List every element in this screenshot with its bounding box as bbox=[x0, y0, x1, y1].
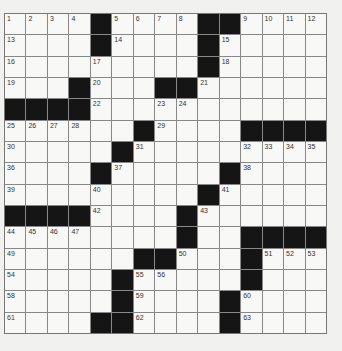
grid-cell[interactable]: 34 bbox=[284, 142, 304, 162]
grid-cell[interactable]: 14 bbox=[112, 35, 132, 55]
grid-cell[interactable] bbox=[134, 78, 154, 98]
grid-cell[interactable] bbox=[220, 142, 240, 162]
grid-cell[interactable]: 19 bbox=[5, 78, 25, 98]
grid-cell[interactable] bbox=[69, 270, 89, 290]
grid-cell[interactable]: 10 bbox=[263, 14, 283, 34]
grid-cell[interactable] bbox=[69, 313, 89, 333]
grid-cell[interactable] bbox=[134, 206, 154, 226]
grid-cell[interactable] bbox=[48, 78, 68, 98]
grid-cell[interactable] bbox=[220, 270, 240, 290]
grid-cell[interactable]: 27 bbox=[48, 121, 68, 141]
grid-cell[interactable]: 55 bbox=[134, 270, 154, 290]
grid-cell[interactable] bbox=[241, 206, 261, 226]
grid-cell[interactable]: 29 bbox=[155, 121, 175, 141]
grid-cell[interactable]: 37 bbox=[112, 163, 132, 183]
grid-cell[interactable]: 23 bbox=[155, 99, 175, 119]
grid-cell[interactable] bbox=[198, 227, 218, 247]
grid-cell[interactable] bbox=[69, 163, 89, 183]
grid-cell[interactable] bbox=[263, 163, 283, 183]
grid-cell[interactable]: 35 bbox=[306, 142, 326, 162]
grid-cell[interactable]: 47 bbox=[69, 227, 89, 247]
grid-cell[interactable] bbox=[284, 57, 304, 77]
grid-cell[interactable]: 40 bbox=[91, 185, 111, 205]
grid-cell[interactable] bbox=[112, 206, 132, 226]
grid-cell[interactable] bbox=[177, 35, 197, 55]
grid-cell[interactable] bbox=[306, 313, 326, 333]
grid-cell[interactable] bbox=[26, 142, 46, 162]
grid-cell[interactable]: 9 bbox=[241, 14, 261, 34]
grid-cell[interactable] bbox=[112, 227, 132, 247]
grid-cell[interactable] bbox=[155, 57, 175, 77]
grid-cell[interactable] bbox=[112, 121, 132, 141]
grid-cell[interactable] bbox=[91, 270, 111, 290]
grid-cell[interactable] bbox=[306, 99, 326, 119]
grid-cell[interactable] bbox=[241, 185, 261, 205]
grid-cell[interactable]: 62 bbox=[134, 313, 154, 333]
grid-cell[interactable] bbox=[155, 313, 175, 333]
grid-cell[interactable] bbox=[69, 57, 89, 77]
grid-cell[interactable] bbox=[26, 249, 46, 269]
grid-cell[interactable] bbox=[263, 313, 283, 333]
grid-cell[interactable]: 31 bbox=[134, 142, 154, 162]
grid-cell[interactable]: 42 bbox=[91, 206, 111, 226]
grid-cell[interactable] bbox=[263, 99, 283, 119]
grid-cell[interactable] bbox=[112, 57, 132, 77]
grid-cell[interactable] bbox=[306, 35, 326, 55]
grid-cell[interactable] bbox=[69, 249, 89, 269]
grid-cell[interactable]: 44 bbox=[5, 227, 25, 247]
grid-cell[interactable]: 51 bbox=[263, 249, 283, 269]
grid-cell[interactable] bbox=[198, 291, 218, 311]
grid-cell[interactable]: 24 bbox=[177, 99, 197, 119]
grid-cell[interactable]: 18 bbox=[220, 57, 240, 77]
grid-cell[interactable] bbox=[155, 185, 175, 205]
grid-cell[interactable] bbox=[284, 99, 304, 119]
grid-cell[interactable]: 49 bbox=[5, 249, 25, 269]
grid-cell[interactable] bbox=[26, 57, 46, 77]
grid-cell[interactable] bbox=[198, 121, 218, 141]
grid-cell[interactable]: 53 bbox=[306, 249, 326, 269]
grid-cell[interactable] bbox=[48, 185, 68, 205]
grid-cell[interactable]: 36 bbox=[5, 163, 25, 183]
grid-cell[interactable] bbox=[155, 35, 175, 55]
grid-cell[interactable] bbox=[220, 78, 240, 98]
grid-cell[interactable] bbox=[198, 142, 218, 162]
grid-cell[interactable] bbox=[91, 249, 111, 269]
grid-cell[interactable]: 26 bbox=[26, 121, 46, 141]
grid-cell[interactable] bbox=[155, 291, 175, 311]
grid-cell[interactable] bbox=[177, 121, 197, 141]
grid-cell[interactable]: 28 bbox=[69, 121, 89, 141]
grid-cell[interactable]: 45 bbox=[26, 227, 46, 247]
grid-cell[interactable] bbox=[26, 163, 46, 183]
grid-cell[interactable]: 1 bbox=[5, 14, 25, 34]
grid-cell[interactable]: 5 bbox=[112, 14, 132, 34]
grid-cell[interactable] bbox=[91, 121, 111, 141]
grid-cell[interactable] bbox=[112, 185, 132, 205]
grid-cell[interactable]: 21 bbox=[198, 78, 218, 98]
grid-cell[interactable] bbox=[112, 249, 132, 269]
grid-cell[interactable] bbox=[48, 313, 68, 333]
grid-cell[interactable] bbox=[284, 291, 304, 311]
grid-cell[interactable] bbox=[198, 313, 218, 333]
grid-cell[interactable]: 60 bbox=[241, 291, 261, 311]
grid-cell[interactable]: 33 bbox=[263, 142, 283, 162]
grid-cell[interactable] bbox=[177, 291, 197, 311]
grid-cell[interactable]: 17 bbox=[91, 57, 111, 77]
grid-cell[interactable] bbox=[198, 270, 218, 290]
grid-cell[interactable] bbox=[198, 249, 218, 269]
grid-cell[interactable]: 7 bbox=[155, 14, 175, 34]
grid-cell[interactable]: 43 bbox=[198, 206, 218, 226]
grid-cell[interactable] bbox=[112, 78, 132, 98]
grid-cell[interactable] bbox=[91, 291, 111, 311]
grid-cell[interactable] bbox=[69, 35, 89, 55]
grid-cell[interactable]: 39 bbox=[5, 185, 25, 205]
grid-cell[interactable] bbox=[155, 206, 175, 226]
grid-cell[interactable] bbox=[134, 35, 154, 55]
grid-cell[interactable]: 15 bbox=[220, 35, 240, 55]
grid-cell[interactable]: 11 bbox=[284, 14, 304, 34]
grid-cell[interactable] bbox=[26, 291, 46, 311]
grid-cell[interactable] bbox=[263, 270, 283, 290]
grid-cell[interactable]: 52 bbox=[284, 249, 304, 269]
grid-cell[interactable] bbox=[26, 185, 46, 205]
grid-cell[interactable]: 2 bbox=[26, 14, 46, 34]
grid-cell[interactable] bbox=[155, 163, 175, 183]
